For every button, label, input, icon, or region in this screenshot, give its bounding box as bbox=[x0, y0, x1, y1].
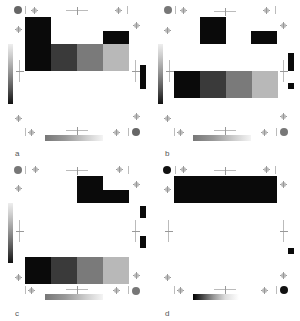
tick-mark bbox=[275, 166, 276, 174]
pattern-block bbox=[103, 31, 129, 44]
registration-mark-icon bbox=[263, 7, 270, 14]
registration-mark-icon bbox=[164, 115, 171, 122]
grayscale-vertical-bar bbox=[8, 203, 13, 263]
crosshair-top bbox=[66, 7, 88, 15]
registration-mark-icon bbox=[180, 7, 187, 14]
registration-mark-icon bbox=[280, 113, 287, 120]
registration-mark-icon bbox=[15, 115, 22, 122]
tick-mark bbox=[175, 6, 176, 14]
pattern-block bbox=[51, 257, 77, 284]
registration-mark-icon bbox=[133, 22, 140, 29]
pattern-block bbox=[51, 44, 77, 71]
crosshair-left bbox=[165, 220, 173, 242]
side-mark bbox=[288, 83, 294, 89]
pattern-block bbox=[25, 17, 51, 71]
registration-mark-icon bbox=[113, 129, 120, 136]
crosshair-right bbox=[280, 60, 288, 82]
side-mark bbox=[288, 248, 294, 254]
registration-mark-icon bbox=[15, 274, 22, 281]
pattern-block bbox=[25, 257, 51, 284]
panel-label: c bbox=[15, 309, 19, 318]
registration-mark-icon bbox=[164, 27, 171, 34]
registration-mark-icon bbox=[177, 129, 184, 136]
tick-mark bbox=[25, 286, 26, 294]
tick-mark bbox=[276, 286, 277, 294]
registration-mark-icon bbox=[113, 287, 120, 294]
grayscale-horizontal-bar bbox=[45, 135, 103, 141]
corner-dot-top-left bbox=[14, 166, 22, 174]
pattern-block bbox=[174, 71, 200, 98]
registration-mark-icon bbox=[180, 166, 187, 173]
registration-mark-icon bbox=[31, 7, 38, 14]
corner-dot-bottom-right bbox=[132, 128, 140, 136]
crosshair-right bbox=[280, 220, 288, 242]
pattern-block bbox=[174, 176, 277, 203]
crosshair-bottom bbox=[214, 286, 236, 294]
panel-label: b bbox=[165, 149, 169, 158]
registration-mark-icon bbox=[116, 166, 123, 173]
registration-mark-icon bbox=[15, 26, 22, 33]
pattern-block bbox=[103, 257, 129, 284]
tick-mark bbox=[128, 166, 129, 174]
registration-mark-icon bbox=[28, 287, 35, 294]
tick-mark bbox=[276, 128, 277, 136]
registration-mark-icon bbox=[133, 181, 140, 188]
crosshair-right bbox=[132, 220, 140, 242]
panel-label: a bbox=[15, 149, 19, 158]
crosshair-left bbox=[16, 220, 24, 242]
registration-mark-icon bbox=[115, 7, 122, 14]
corner-dot-bottom-right bbox=[280, 128, 288, 136]
registration-mark-icon bbox=[164, 274, 171, 281]
crosshair-bottom bbox=[214, 127, 236, 135]
pattern-block bbox=[77, 44, 103, 71]
pattern-block bbox=[252, 71, 278, 98]
side-mark bbox=[140, 65, 146, 89]
pattern-block bbox=[103, 190, 129, 203]
registration-mark-icon bbox=[164, 186, 171, 193]
grayscale-horizontal-bar bbox=[193, 294, 239, 300]
registration-mark-icon bbox=[28, 129, 35, 136]
tick-mark bbox=[128, 286, 129, 294]
corner-dot-bottom-right bbox=[280, 286, 288, 294]
pattern-block bbox=[77, 176, 103, 203]
side-mark bbox=[140, 206, 146, 218]
side-mark bbox=[288, 53, 294, 71]
registration-mark-icon bbox=[280, 272, 287, 279]
tick-mark bbox=[275, 6, 276, 14]
registration-mark-icon bbox=[133, 272, 140, 279]
registration-mark-icon bbox=[280, 22, 287, 29]
tick-mark bbox=[175, 166, 176, 174]
registration-mark-icon bbox=[263, 166, 270, 173]
tick-mark bbox=[174, 128, 175, 136]
panel-label: d bbox=[165, 309, 169, 318]
side-mark bbox=[140, 236, 146, 248]
registration-mark-icon bbox=[280, 181, 287, 188]
grayscale-vertical-bar bbox=[158, 44, 163, 104]
pattern-block bbox=[200, 71, 226, 98]
registration-mark-icon bbox=[32, 166, 39, 173]
corner-dot-top-left bbox=[14, 6, 22, 14]
tick-mark bbox=[25, 6, 26, 14]
pattern-block bbox=[251, 31, 277, 44]
tick-mark bbox=[128, 128, 129, 136]
tick-mark bbox=[174, 286, 175, 294]
registration-mark-icon bbox=[15, 185, 22, 192]
registration-mark-icon bbox=[261, 287, 268, 294]
crosshair-right bbox=[132, 60, 140, 82]
pattern-block bbox=[103, 44, 129, 71]
crosshair-left bbox=[166, 60, 174, 82]
pattern-block bbox=[200, 17, 226, 44]
corner-dot-top-left bbox=[163, 166, 171, 174]
panel-a: a bbox=[0, 0, 150, 160]
crosshair-bottom bbox=[66, 286, 88, 294]
registration-mark-icon bbox=[261, 129, 268, 136]
corner-dot-top-left bbox=[164, 6, 172, 14]
grayscale-horizontal-bar bbox=[45, 294, 103, 300]
grayscale-horizontal-bar bbox=[193, 135, 251, 141]
tick-mark bbox=[127, 6, 128, 14]
registration-mark-icon bbox=[177, 287, 184, 294]
grayscale-vertical-bar bbox=[8, 44, 13, 104]
crosshair-top bbox=[66, 167, 88, 175]
crosshair-bottom bbox=[66, 127, 88, 135]
corner-dot-bottom-right bbox=[132, 287, 140, 295]
